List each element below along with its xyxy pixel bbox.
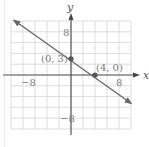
point-label: (4, 0) (96, 62, 123, 73)
x-tick-label: −8 (21, 77, 36, 88)
x-axis-arrow-icon (133, 73, 140, 78)
data-point (68, 56, 73, 61)
coordinate-plane: x y −888−8 (0, 3)(4, 0) (0, 0, 149, 147)
x-axis-label: x (143, 69, 149, 82)
y-axis-arrow-icon (69, 13, 74, 20)
labeled-points: (0, 3)(4, 0) (41, 53, 123, 78)
point-label: (0, 3) (41, 53, 68, 64)
y-axis-label: y (66, 1, 74, 14)
data-point (92, 72, 97, 77)
y-tick-label: −8 (60, 113, 75, 124)
y-tick-label: 8 (63, 27, 69, 38)
x-tick-label: 8 (116, 77, 122, 88)
